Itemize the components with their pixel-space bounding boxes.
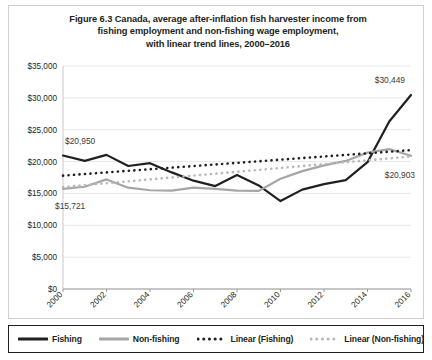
- data-point-label: $15,721: [55, 201, 86, 211]
- y-axis-tick-label: $10,000: [27, 221, 57, 230]
- legend-label: Linear (Fishing): [231, 334, 294, 344]
- legend-swatch-solid: [18, 334, 48, 344]
- x-axis-tick-label: 2016: [393, 290, 413, 310]
- y-axis-tick-label: $5,000: [32, 253, 57, 262]
- data-point-label: $30,449: [375, 75, 406, 85]
- legend-swatch-dotted: [197, 334, 227, 344]
- x-axis-tick-labels: 200020022004200620082010201220142016: [45, 290, 413, 310]
- x-axis-tick-label: 2008: [219, 290, 239, 310]
- series-line-fishing: [63, 95, 411, 201]
- y-axis-tick-label: $30,000: [27, 94, 57, 103]
- x-axis-tick-label: 2014: [350, 290, 370, 310]
- figure-container: Figure 6.3 Canada, average after-inflati…: [0, 0, 432, 360]
- y-axis-tick-labels: $0$5,000$10,000$15,000$20,000$25,000$30,…: [27, 62, 57, 294]
- data-point-label: $20,950: [65, 136, 96, 146]
- y-axis-tick-label: $20,000: [27, 158, 57, 167]
- legend-label: Fishing: [52, 334, 82, 344]
- y-axis-tick-label: $35,000: [27, 62, 57, 71]
- chart-legend: FishingNon-fishingLinear (Fishing)Linear…: [8, 325, 424, 353]
- x-axis-tick-label: 2004: [132, 290, 152, 310]
- x-axis-tick-label: 2002: [89, 290, 109, 310]
- legend-label: Non-fishing: [133, 334, 180, 344]
- x-axis-tick-label: 2006: [176, 290, 196, 310]
- x-axis-tick-label: 2012: [306, 290, 326, 310]
- legend-item-linear-fishing[interactable]: Linear (Fishing): [197, 334, 294, 344]
- legend-item-non-fishing[interactable]: Non-fishing: [99, 334, 180, 344]
- legend-swatch-solid: [99, 334, 129, 344]
- series-lines: [63, 95, 411, 201]
- legend-swatch-dotted: [310, 334, 340, 344]
- axis-lines: [63, 66, 411, 292]
- y-axis-tick-label: $25,000: [27, 126, 57, 135]
- legend-label: Linear (Non-fishing): [344, 334, 424, 344]
- grid-lines: [63, 66, 411, 289]
- series-line-linear-fishing: [63, 150, 411, 175]
- data-point-label: $20,903: [385, 170, 416, 180]
- x-axis-tick-label: 2010: [263, 290, 283, 310]
- legend-item-linear-non-fishing[interactable]: Linear (Non-fishing): [310, 334, 424, 344]
- legend-item-fishing[interactable]: Fishing: [18, 334, 82, 344]
- y-axis-tick-label: $15,000: [27, 189, 57, 198]
- line-chart-plot: $0$5,000$10,000$15,000$20,000$25,000$30,…: [0, 0, 432, 360]
